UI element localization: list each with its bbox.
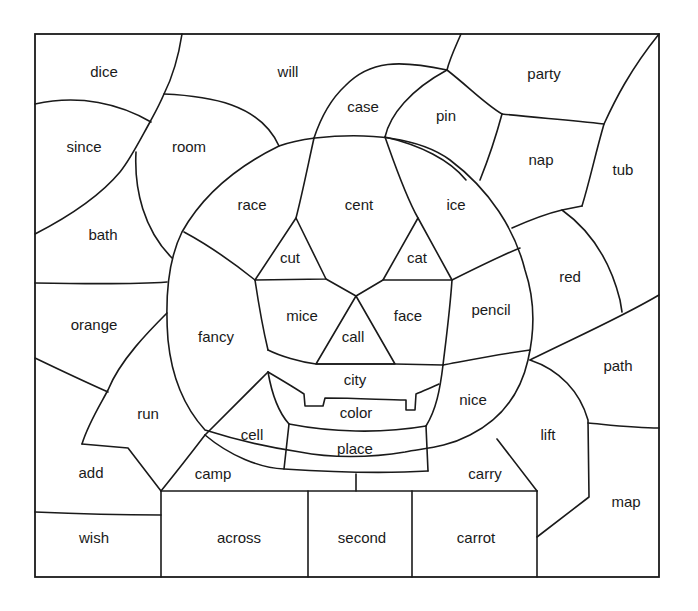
boundary-bath-orange	[35, 282, 167, 284]
boundary-nice-carry	[497, 439, 537, 491]
region-label-case: case	[347, 98, 379, 115]
boundary-dice-since	[35, 100, 151, 122]
region-label-cat: cat	[407, 249, 428, 266]
region-label-dice: dice	[90, 63, 118, 80]
boundary-ice-pin	[385, 137, 466, 180]
boundary-path-map	[588, 423, 659, 428]
boundary-cent-nose	[326, 279, 383, 296]
boundary-red-tub	[562, 210, 622, 312]
region-label-pin: pin	[436, 107, 456, 124]
region-label-will: will	[277, 63, 299, 80]
region-label-cent: cent	[345, 196, 374, 213]
boundary-add-wish	[35, 512, 161, 515]
boundary-will-case	[447, 34, 461, 70]
boundary-pencil-nice	[443, 350, 530, 365]
boundary-dice-will	[150, 34, 182, 122]
region-label-nice: nice	[459, 391, 487, 408]
mouth-upper	[268, 350, 443, 365]
boundary-room-bath	[136, 152, 172, 258]
region-label-ice: ice	[446, 196, 465, 213]
region-label-across: across	[217, 529, 261, 546]
region-label-second: second	[338, 529, 386, 546]
boundary-party-nap	[502, 114, 604, 124]
boundary-ice-pencil	[452, 248, 520, 280]
boundary-lift	[530, 360, 589, 537]
region-label-orange: orange	[71, 316, 118, 333]
boundary-place-nice	[426, 426, 428, 471]
boundary-cell-place	[284, 424, 289, 469]
region-label-carrot: carrot	[457, 529, 496, 546]
region-label-nap: nap	[528, 151, 553, 168]
picture-frame	[35, 34, 659, 577]
region-label-run: run	[137, 405, 159, 422]
region-label-fancy: fancy	[198, 328, 234, 345]
boundary-orange-add	[35, 358, 108, 392]
region-label-carry: carry	[468, 465, 502, 482]
boundary-color-nice	[426, 365, 443, 426]
boundary-party-tub	[582, 34, 659, 206]
region-label-add: add	[78, 464, 103, 481]
boundary-race-fancy	[184, 232, 255, 280]
region-label-call: call	[342, 328, 365, 345]
region-label-race: race	[237, 196, 266, 213]
region-label-bath: bath	[88, 226, 117, 243]
region-label-wish: wish	[78, 529, 109, 546]
boundary-mice-fancy	[255, 280, 268, 350]
region-label-lift: lift	[541, 426, 557, 443]
boundary-case-pin	[385, 70, 447, 137]
region-label-mice: mice	[286, 307, 318, 324]
region-label-cut: cut	[280, 249, 301, 266]
region-label-city: city	[344, 371, 367, 388]
boundary-cent-ice	[385, 137, 418, 218]
boundary-case	[314, 64, 447, 138]
mouth-color-bottom	[289, 424, 426, 431]
boundary-city-cell	[268, 372, 289, 424]
worksheet-picture: dice will party case pin since room nap …	[0, 0, 698, 611]
boundary-pin-nap	[480, 114, 502, 180]
boundary-face-pencil	[443, 280, 452, 365]
region-label-color: color	[340, 404, 373, 421]
region-label-tub: tub	[613, 161, 634, 178]
region-label-room: room	[172, 138, 206, 155]
region-label-party: party	[527, 65, 561, 82]
region-label-cell: cell	[241, 426, 264, 443]
region-label-place: place	[337, 440, 373, 457]
boundary-run-camp	[161, 435, 205, 491]
region-label-path: path	[603, 357, 632, 374]
region-label-since: since	[66, 138, 101, 155]
region-label-pencil: pencil	[471, 301, 510, 318]
region-label-face: face	[394, 307, 422, 324]
boundary-red-path	[530, 295, 659, 360]
region-label-red: red	[559, 268, 581, 285]
region-label-map: map	[611, 493, 640, 510]
boundary-race-cent	[296, 138, 314, 218]
region-label-camp: camp	[195, 465, 232, 482]
